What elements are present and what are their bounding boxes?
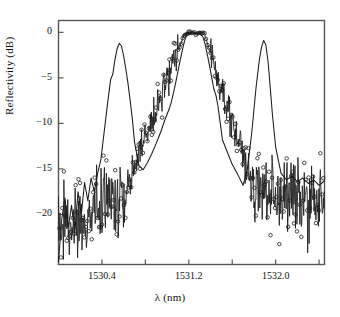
reflectivity-spectrum-figure: 1530.41531.21532.0 0−5−10−15−20 Reflecti… bbox=[0, 0, 340, 317]
y-tick-label: −15 bbox=[20, 162, 52, 173]
x-tick-label: 1531.2 bbox=[159, 270, 219, 281]
data-point-marker bbox=[257, 152, 261, 156]
y-axis-ticks bbox=[59, 32, 64, 214]
y-tick-label: −20 bbox=[20, 207, 52, 218]
data-point-marker bbox=[269, 233, 273, 237]
data-point-marker bbox=[314, 221, 318, 225]
data-point-marker bbox=[77, 177, 81, 181]
data-point-marker bbox=[93, 176, 97, 180]
data-point-marker bbox=[295, 230, 299, 234]
data-point-marker bbox=[83, 236, 87, 240]
data-point-marker bbox=[278, 242, 282, 246]
plot-border bbox=[59, 21, 325, 265]
y-tick-label: −10 bbox=[20, 116, 52, 127]
data-point-marker bbox=[105, 159, 109, 163]
data-point-marker bbox=[319, 152, 323, 156]
data-point-marker bbox=[59, 256, 63, 260]
x-axis-title: λ (nm) bbox=[0, 291, 340, 303]
data-point-marker bbox=[90, 238, 94, 242]
data-point-marker bbox=[300, 235, 304, 239]
data-point-marker bbox=[113, 168, 117, 172]
plot-frame bbox=[59, 21, 325, 265]
data-point-marker bbox=[102, 154, 106, 158]
data-point-marker bbox=[285, 157, 289, 161]
data-point-marker bbox=[256, 157, 260, 161]
data-point-marker bbox=[74, 183, 78, 187]
data-point-marker bbox=[303, 161, 307, 165]
data-point-marker bbox=[160, 116, 164, 120]
data-point-marker bbox=[261, 166, 265, 170]
data-point-marker bbox=[62, 170, 65, 174]
data-point-marker bbox=[307, 176, 311, 180]
measured-data-markers bbox=[58, 30, 325, 259]
y-tick-label: 0 bbox=[20, 25, 52, 36]
x-axis-ticks bbox=[59, 260, 320, 265]
x-tick-label: 1532.0 bbox=[246, 270, 306, 281]
y-axis-title: Reflectivity (dB) bbox=[3, 99, 15, 115]
data-point-marker bbox=[226, 117, 230, 121]
data-point-marker bbox=[267, 170, 271, 174]
data-point-marker bbox=[156, 82, 160, 86]
data-point-marker bbox=[235, 149, 239, 153]
data-point-marker bbox=[320, 193, 324, 197]
y-tick-label: −5 bbox=[20, 71, 52, 82]
x-tick-label: 1530.4 bbox=[72, 270, 132, 281]
data-point-marker bbox=[138, 167, 142, 171]
data-point-marker bbox=[78, 181, 82, 185]
